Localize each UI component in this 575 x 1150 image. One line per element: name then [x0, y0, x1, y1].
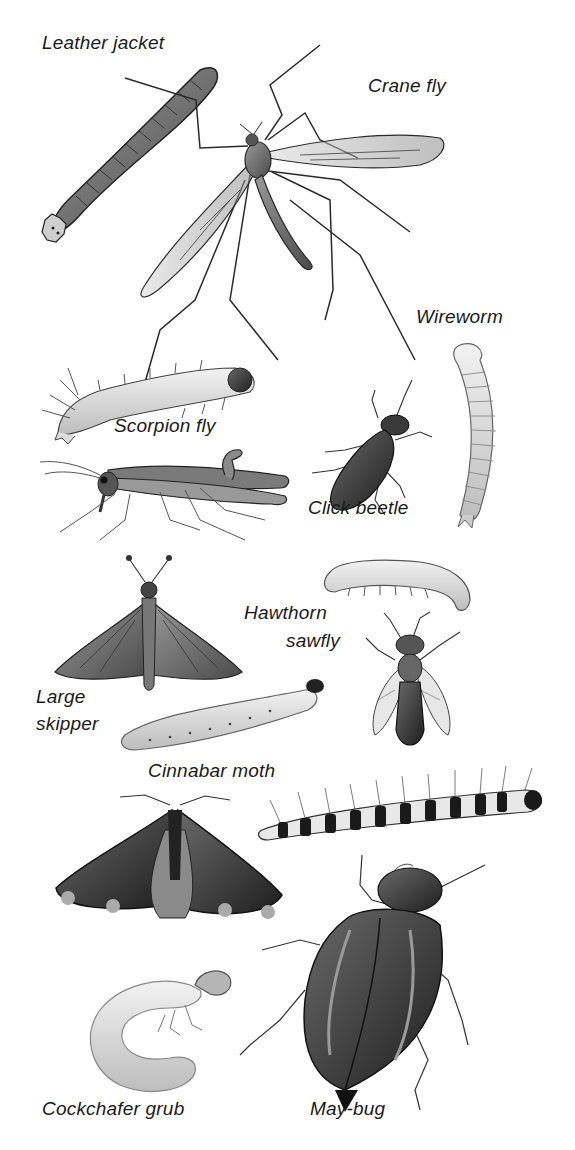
label-hawthorn-sawfly-line2: sawfly: [286, 630, 340, 652]
cinnabar-larva-icon: [259, 766, 542, 840]
label-crane-fly: Crane fly: [368, 75, 446, 97]
hawthorn-sawfly-icon: [366, 612, 460, 745]
illustrations: [0, 0, 575, 1150]
wireworm-icon: [454, 344, 496, 528]
label-wireworm: Wireworm: [416, 306, 503, 328]
label-cinnabar-moth: Cinnabar moth: [148, 760, 275, 782]
label-cockchafer-grub: Cockchafer grub: [42, 1098, 184, 1120]
cockchafer-grub-icon: [90, 971, 230, 1091]
hawthorn-sawfly-larva-icon: [325, 560, 470, 610]
cinnabar-moth-icon: [56, 795, 282, 919]
label-may-bug: May-bug: [310, 1098, 385, 1120]
label-large-skipper-line2: skipper: [36, 713, 99, 735]
scorpion-fly-icon: [40, 450, 289, 540]
label-scorpion-fly: Scorpion fly: [114, 415, 216, 437]
leather-jacket-icon: [42, 68, 217, 242]
large-skipper-icon: [55, 555, 242, 690]
label-click-beetle: Click beetle: [308, 497, 409, 519]
click-beetle-icon: [312, 380, 432, 515]
label-hawthorn-sawfly-line1: Hawthorn: [244, 602, 327, 624]
label-leather-jacket: Leather jacket: [42, 32, 164, 54]
insect-plate: Leather jacket Crane fly Wireworm Scorpi…: [0, 0, 575, 1150]
label-large-skipper-line1: Large: [36, 686, 86, 708]
